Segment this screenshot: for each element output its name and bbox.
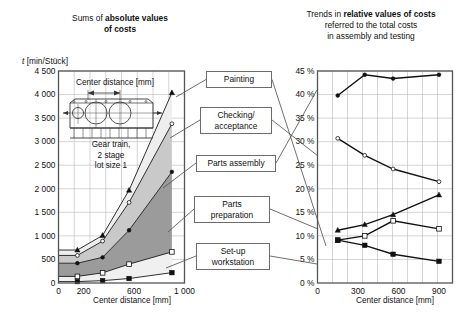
callout-parts-assembly[interactable]: Parts assembly (196, 155, 276, 172)
callout-painting[interactable]: Painting (206, 71, 272, 88)
gear-train-drawing (63, 90, 162, 138)
inset-caption-label: Center distance [mm] (60, 78, 170, 89)
figure-root: Sums of absolute values of costs Trends … (0, 0, 461, 315)
inset-legend-line1: Gear train, (92, 140, 131, 149)
callout-parts-preparation[interactable]: Partspreparation (194, 196, 270, 223)
inset-legend-line2: 2 stage (98, 151, 125, 160)
callout-parts-preparation-label: Partspreparation (211, 199, 253, 219)
callout-checking-acceptance-label: Checking/acceptance (215, 110, 258, 130)
callout-setup-workstation[interactable]: Set-upworkstation (196, 243, 270, 270)
callout-parts-assembly-label: Parts assembly (207, 158, 264, 168)
callout-setup-workstation-label: Set-upworkstation (212, 246, 254, 266)
inset-legend-label: Gear train, 2 stage lot size 1 (58, 140, 164, 172)
inset-legend-line3: lot size 1 (95, 161, 127, 170)
callout-painting-label: Painting (224, 74, 254, 84)
callout-checking-acceptance[interactable]: Checking/acceptance (200, 107, 272, 134)
